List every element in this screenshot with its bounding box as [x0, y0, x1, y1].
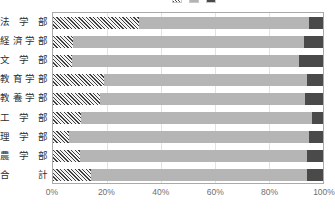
x-axis-tick: 80%: [261, 187, 278, 197]
x-axis-tick: 40%: [152, 187, 169, 197]
y-axis-label: 理 学 部: [0, 127, 48, 146]
bar-segment-series-2: [91, 169, 307, 181]
y-axis-label: 工 学 部: [0, 108, 48, 127]
x-axis-tick: 100%: [313, 187, 335, 197]
bar-segment-series-3: [309, 17, 323, 29]
plot-area: [52, 12, 324, 184]
bar-row: [53, 13, 323, 32]
bar-row: [53, 166, 323, 185]
bar-segment-series-1: [53, 55, 72, 67]
bar-segment-series-3: [312, 112, 323, 124]
x-axis-tick-labels: 0%20%40%60%80%100%: [52, 187, 324, 201]
x-axis-tick: 20%: [98, 187, 115, 197]
y-axis-label: 教育学部: [0, 69, 48, 88]
bar-segment-series-3: [309, 131, 323, 143]
x-axis-tick: 0%: [46, 187, 58, 197]
bar-segment-series-3: [307, 74, 323, 86]
y-axis-label: 農 学 部: [0, 146, 48, 165]
bar-segment-series-2: [69, 131, 309, 143]
y-axis-label: 法 学 部: [0, 12, 48, 31]
legend-swatch-mid-icon: [189, 0, 199, 3]
bar-row: [53, 70, 323, 89]
bar-segment-series-3: [299, 55, 323, 67]
bar-segment-series-1: [53, 74, 104, 86]
legend-entry-3: [206, 0, 216, 3]
bar-row: [53, 109, 323, 128]
bar-segment-series-3: [305, 93, 323, 105]
chart-legend: [172, 0, 216, 3]
bar-row: [53, 89, 323, 108]
bar-segment-series-1: [53, 150, 80, 162]
bar-segment-series-3: [307, 169, 323, 181]
y-axis-category-labels: 法 学 部経済学部文 学 部教育学部教養学部工 学 部理 学 部農 学 部合 計: [0, 12, 50, 184]
bar-segment-series-2: [100, 93, 305, 105]
bar-segment-series-3: [304, 36, 323, 48]
legend-swatch-hatched-icon: [172, 0, 182, 3]
legend-entry-1: [172, 0, 182, 3]
bar-segment-series-1: [53, 112, 81, 124]
bar-segment-series-1: [53, 169, 91, 181]
bar-segment-series-1: [53, 17, 139, 29]
bar-segment-series-2: [80, 150, 307, 162]
bar-row: [53, 32, 323, 51]
legend-swatch-dark-icon: [206, 0, 216, 3]
bar-segment-series-1: [53, 131, 69, 143]
y-axis-label: 教養学部: [0, 88, 48, 107]
bar-segment-series-2: [104, 74, 307, 86]
bar-segment-series-1: [53, 93, 100, 105]
bar-segment-series-3: [307, 150, 323, 162]
bar-segment-series-2: [81, 112, 312, 124]
bar-segment-series-1: [53, 36, 73, 48]
x-axis-tick: 60%: [207, 187, 224, 197]
bar-row: [53, 147, 323, 166]
bar-segment-series-2: [72, 55, 299, 67]
bar-row: [53, 128, 323, 147]
bar-row: [53, 51, 323, 70]
y-axis-label: 文 学 部: [0, 50, 48, 69]
bar-segment-series-2: [73, 36, 304, 48]
y-axis-label: 合 計: [0, 165, 48, 184]
y-axis-label: 経済学部: [0, 31, 48, 50]
bar-segment-series-2: [139, 17, 309, 29]
legend-entry-2: [189, 0, 199, 3]
bar-rows: [53, 13, 323, 183]
